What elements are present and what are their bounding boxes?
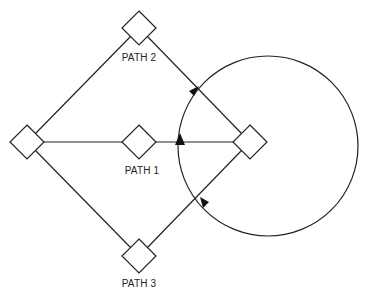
edge-left-bottom — [35, 150, 131, 248]
feedback-loop-circle — [178, 56, 358, 236]
label-path-1: PATH 1 — [125, 165, 160, 176]
arrow-path1-icon — [175, 133, 185, 145]
edge-top-right — [147, 36, 242, 134]
diagram-canvas — [0, 0, 366, 294]
node-middle — [122, 125, 156, 159]
edge-left-top — [35, 36, 131, 134]
label-path-2: PATH 2 — [122, 52, 157, 63]
label-path-3: PATH 3 — [122, 278, 157, 289]
edge-bottom-right — [147, 150, 242, 248]
